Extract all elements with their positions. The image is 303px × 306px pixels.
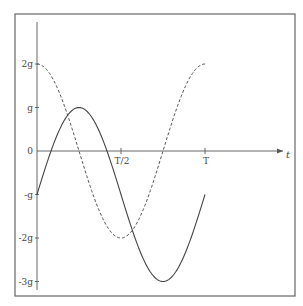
y-ticks: 2gg0-g-2g-3g [18, 59, 39, 287]
solid-series-line [37, 108, 205, 282]
y-tick-label: 0 [27, 146, 33, 156]
y-tick-label: -2g [18, 233, 33, 243]
chart-frame [15, 14, 295, 296]
x-axis-label: t [286, 149, 291, 160]
y-tick-label: 2g [22, 59, 34, 69]
x-tick-label: T [203, 156, 209, 166]
x-tick-label: T/2 [115, 156, 130, 166]
x-axis-arrow-icon [277, 149, 283, 154]
chart-canvas: 2gg0-g-2g-3g T/2T t [0, 0, 303, 306]
y-tick-label: -3g [18, 277, 33, 287]
y-tick-label: -g [24, 190, 33, 200]
y-tick-label: g [27, 103, 33, 113]
